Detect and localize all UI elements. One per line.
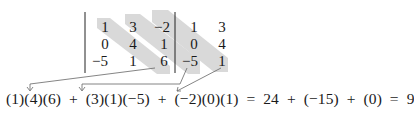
arrow-to-product-2 [82,68,187,90]
matrix-cell-r1c2: 3 [121,20,145,35]
matrix-cell-r2c3: 1 [152,37,176,52]
matrix-cell-r1c1: 1 [93,20,117,35]
augmented-cell-r3c1: −5 [178,54,202,69]
matrix-cell-r3c1: −5 [88,54,112,69]
matrix-cell-r3c3: 6 [152,54,176,69]
matrix-cell-r3c2: 1 [121,54,145,69]
determinant-equation: (1)(4)(6) + (3)(1)(−5) + (−2)(0)(1) = 24… [6,90,414,108]
matrix-cell-r2c1: 0 [93,37,117,52]
augmented-cell-r1c2: 3 [210,20,234,35]
matrix-cell-r2c2: 4 [121,37,145,52]
augmented-cell-r3c2: 1 [210,54,234,69]
arrow-to-product-1 [30,68,155,90]
augmented-cell-r2c2: 4 [210,37,234,52]
matrix-cell-r1c3: −2 [150,20,174,35]
augmented-cell-r1c1: 1 [182,20,206,35]
augmented-cell-r2c1: 0 [182,37,206,52]
